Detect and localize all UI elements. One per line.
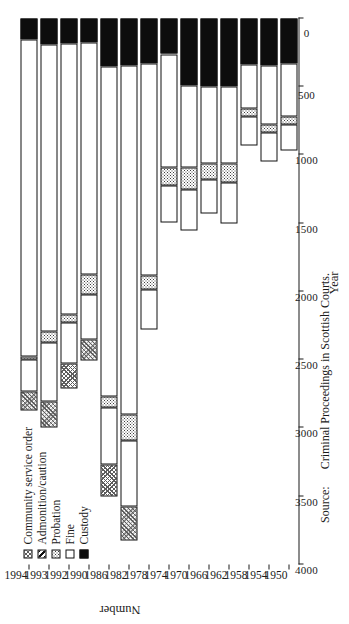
bar-segment-custody	[140, 18, 157, 63]
category-tick	[288, 564, 289, 569]
bar-segment-probation	[260, 124, 277, 132]
bar-segment-custody	[100, 18, 117, 66]
bar-segment-cso	[100, 464, 117, 495]
bar-segment-admonition	[80, 294, 97, 339]
bar-segment-probation	[100, 396, 117, 407]
bar-segment-admonition	[200, 179, 217, 213]
bar-1950	[280, 18, 297, 564]
bar-segment-cso	[120, 506, 137, 540]
bar-1962	[220, 18, 237, 564]
bar-segment-custody	[180, 18, 197, 85]
bar-segment-cso	[40, 401, 57, 428]
category-tick	[68, 564, 69, 569]
bar-1974	[160, 18, 177, 564]
bar-1982	[120, 18, 137, 564]
bar-segment-admonition	[20, 359, 37, 390]
bar-segment-fine	[200, 86, 217, 162]
category-tick	[48, 564, 49, 569]
bar-segment-admonition	[280, 124, 297, 149]
chart-figure: Community service order Admonition/cauti…	[0, 0, 349, 624]
bar-segment-fine	[180, 85, 197, 167]
bar-segment-fine	[280, 63, 297, 116]
bar-segment-admonition	[260, 132, 277, 161]
category-tick	[208, 564, 209, 569]
bar-segment-fine	[240, 64, 257, 108]
category-tick	[188, 564, 189, 569]
bar-segment-custody	[200, 18, 217, 86]
bar-1954	[260, 18, 277, 564]
bar-segment-custody	[120, 18, 137, 65]
category-tick	[168, 564, 169, 569]
value-tick-label: 0	[303, 26, 309, 38]
bar-segment-cso	[80, 339, 97, 360]
bar-segment-fine	[40, 44, 57, 331]
bar-segment-cso	[60, 363, 77, 388]
bar-1992	[60, 18, 77, 564]
bar-segment-custody	[280, 18, 297, 63]
bar-segment-custody	[40, 18, 57, 44]
bar-1990	[80, 18, 97, 564]
bar-segment-admonition	[140, 289, 157, 329]
bar-1978	[140, 18, 157, 564]
value-tick-label: 2000	[295, 291, 318, 303]
value-tick	[298, 17, 303, 18]
bar-segment-custody	[60, 18, 77, 43]
bar-segment-probation	[140, 275, 157, 289]
bar-segment-admonition	[220, 182, 237, 223]
category-tick	[88, 564, 89, 569]
bar-segment-cso	[20, 391, 37, 411]
source-note: Source: Criminal Proceedings in Scottish…	[318, 273, 333, 523]
bar-segment-probation	[220, 163, 237, 182]
bar-segment-probation	[60, 314, 77, 322]
bar-1993	[40, 18, 57, 564]
bar-segment-custody	[260, 18, 277, 65]
bar-segment-fine	[80, 42, 97, 274]
bar-segment-admonition	[120, 440, 137, 506]
value-tick-label: 3500	[295, 495, 318, 507]
plot-area	[18, 18, 298, 564]
bar-segment-fine	[60, 43, 77, 315]
category-tick	[268, 564, 269, 569]
category-tick	[148, 564, 149, 569]
bar-segment-admonition	[60, 322, 77, 364]
bar-segment-custody	[80, 18, 97, 42]
value-tick-label: 4000	[295, 564, 318, 576]
value-axis-title: Number	[99, 601, 140, 616]
bar-segment-probation	[200, 163, 217, 179]
bar-segment-probation	[160, 167, 177, 185]
bar-segment-admonition	[240, 116, 257, 145]
bar-segment-probation	[280, 116, 297, 124]
bar-1970	[180, 18, 197, 564]
category-tick	[108, 564, 109, 569]
bar-segment-admonition	[100, 407, 117, 464]
category-tick	[228, 564, 229, 569]
bar-segment-probation	[40, 331, 57, 343]
bar-segment-custody	[240, 18, 257, 64]
bar-segment-admonition	[160, 185, 177, 223]
bar-1986	[100, 18, 117, 564]
bar-segment-custody	[220, 18, 237, 86]
bar-segment-probation	[240, 108, 257, 116]
category-label-1994: 1994	[0, 568, 27, 580]
bar-segment-custody	[160, 18, 177, 53]
source-label: Source:	[318, 486, 332, 523]
category-tick	[248, 564, 249, 569]
bar-segment-probation	[20, 356, 37, 359]
bar-1958	[240, 18, 257, 564]
bar-segment-custody	[20, 18, 37, 39]
bar-segment-fine	[20, 39, 37, 356]
bar-segment-fine	[100, 66, 117, 396]
value-tick-label: 3000	[295, 427, 318, 439]
value-tick	[298, 85, 303, 86]
bar-segment-admonition	[40, 342, 57, 401]
value-tick-label: 1500	[295, 222, 318, 234]
value-tick-label: 1000	[295, 154, 318, 166]
bar-segment-fine	[120, 65, 137, 414]
bar-segment-probation	[180, 167, 197, 189]
bar-segment-probation	[80, 274, 97, 294]
bar-segment-admonition	[180, 189, 197, 230]
bar-segment-probation	[120, 414, 137, 441]
bar-segment-fine	[260, 65, 277, 124]
bar-segment-fine	[220, 86, 237, 162]
bar-1966	[200, 18, 217, 564]
